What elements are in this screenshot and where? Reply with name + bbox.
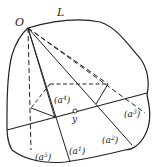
ray-a2 [28,28,132,145]
label-a4: (a4) [54,94,71,105]
ray-a3-dashed [28,28,145,113]
solid-connector-right [96,84,108,104]
geometry-figure: O L y (a4) (a5) (a1) (a2) (a3) [0,0,157,167]
label-curve-L: L [56,6,64,19]
label-a2: (a2) [102,134,119,145]
ray-a4 [28,28,55,118]
dashed-diagonal [31,84,50,108]
ray-dashed-upper [28,28,108,84]
solid-connector-left [31,108,55,117]
label-a5: (a5) [35,151,52,162]
point-y-marker [73,109,77,113]
label-origin: O [15,16,24,29]
label-point-y: y [71,114,78,124]
ray-a5-dashed [28,28,31,150]
label-a1: (a1) [69,145,86,156]
label-a3: (a3) [124,108,141,119]
